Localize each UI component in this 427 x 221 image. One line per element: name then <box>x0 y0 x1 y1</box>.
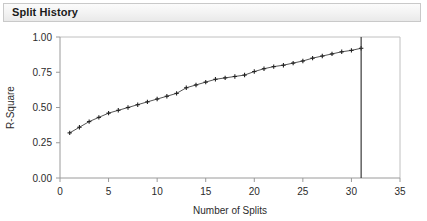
y-tick-label: 0.75 <box>33 67 53 78</box>
panel-titlebar[interactable]: Split History <box>3 3 421 22</box>
y-axis-title: R-Square <box>5 86 16 129</box>
x-tick-label: 30 <box>346 186 358 197</box>
panel-title: Split History <box>12 6 78 18</box>
y-tick-label: 0.50 <box>33 102 53 113</box>
data-point-markers <box>68 46 364 135</box>
chart-canvas: 0.000.250.500.751.0005101520253035Number… <box>0 22 427 221</box>
data-line <box>70 48 361 133</box>
y-tick-label: 0.00 <box>33 173 53 184</box>
y-tick-label: 0.25 <box>33 137 53 148</box>
x-axis-title: Number of Splits <box>193 205 267 216</box>
x-tick-label: 15 <box>200 186 212 197</box>
x-tick-label: 0 <box>57 186 63 197</box>
x-tick-label: 20 <box>249 186 261 197</box>
x-tick-label: 5 <box>106 186 112 197</box>
x-tick-label: 35 <box>394 186 406 197</box>
split-history-panel: Split History 0.000.250.500.751.00051015… <box>0 0 427 221</box>
plot-frame <box>60 37 400 178</box>
split-history-plot: 0.000.250.500.751.0005101520253035Number… <box>0 22 427 221</box>
y-tick-label: 1.00 <box>33 32 53 43</box>
x-tick-label: 25 <box>297 186 309 197</box>
x-tick-label: 10 <box>152 186 164 197</box>
